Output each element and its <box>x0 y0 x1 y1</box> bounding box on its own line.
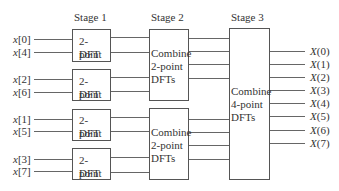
stage-1-dft-box: 2-point DFT <box>72 29 111 62</box>
stage-2-combine-box: Combine 2-point DFTs <box>149 29 189 101</box>
output-index: (2) <box>317 71 330 83</box>
stage-1-dft-box: 2-point DFT <box>72 109 111 141</box>
input-index: [0] <box>18 33 31 45</box>
output-var: X <box>310 58 317 70</box>
box-text-line2: 4-point <box>231 98 263 111</box>
stage-2-combine-box: Combine 2-point DFTs <box>149 108 189 180</box>
box-text-line2: DFT <box>79 167 100 180</box>
output-index: (5) <box>317 110 330 122</box>
output-label-X7: X(7) <box>310 137 330 149</box>
stage-1-heading: Stage 1 <box>74 11 107 23</box>
input-index: [1] <box>18 113 31 125</box>
input-label-x6: x[6] <box>13 86 31 98</box>
output-index: (3) <box>317 84 330 96</box>
output-var: X <box>310 84 317 96</box>
input-label-x7: x[7] <box>13 165 31 177</box>
output-var: X <box>310 71 317 83</box>
box-text-line2: DFT <box>79 88 100 101</box>
output-index: (4) <box>317 97 330 109</box>
box-text-line3: DFTs <box>151 152 175 165</box>
input-index: [5] <box>18 125 31 137</box>
box-text-line1: Combine <box>151 47 191 60</box>
input-index: [7] <box>18 165 31 177</box>
stage-1-dft-box: 2-point DFT <box>72 69 111 101</box>
output-var: X <box>310 124 317 136</box>
input-index: [4] <box>18 46 31 58</box>
box-text-line2: DFT <box>79 127 100 140</box>
box-text-line2: 2-point <box>151 60 183 73</box>
box-text-line1: Combine <box>231 85 271 98</box>
input-label-x1: x[1] <box>13 113 31 125</box>
input-label-x3: x[3] <box>13 153 31 165</box>
input-label-x2: x[2] <box>13 73 31 85</box>
output-label-X5: X(5) <box>310 110 330 122</box>
output-label-X4: X(4) <box>310 97 330 109</box>
output-label-X1: X(1) <box>310 58 330 70</box>
stage-3-combine-box: Combine 4-point DFTs <box>229 28 270 180</box>
output-label-X0: X(0) <box>310 45 330 57</box>
output-index: (0) <box>317 45 330 57</box>
box-text-line3: DFTs <box>151 73 175 86</box>
input-label-x0: x[0] <box>13 33 31 45</box>
box-text-line1: Combine <box>151 126 191 139</box>
box-text-line2: 2-point <box>151 139 183 152</box>
output-index: (1) <box>317 58 330 70</box>
stage-2-heading: Stage 2 <box>151 11 184 23</box>
input-index: [6] <box>18 86 31 98</box>
output-index: (7) <box>317 137 330 149</box>
output-var: X <box>310 137 317 149</box>
output-var: X <box>310 45 317 57</box>
stage-1-dft-box: 2-point DFT <box>72 148 111 180</box>
output-label-X6: X(6) <box>310 124 330 136</box>
input-label-x4: x[4] <box>13 46 31 58</box>
input-index: [2] <box>18 73 31 85</box>
output-index: (6) <box>317 124 330 136</box>
input-label-x5: x[5] <box>13 125 31 137</box>
box-text-line3: DFTs <box>231 111 255 124</box>
output-var: X <box>310 97 317 109</box>
output-var: X <box>310 110 317 122</box>
output-label-X2: X(2) <box>310 71 330 83</box>
output-label-X3: X(3) <box>310 84 330 96</box>
stage-3-heading: Stage 3 <box>231 11 264 23</box>
input-index: [3] <box>18 153 31 165</box>
box-text-line2: DFT <box>79 48 100 61</box>
